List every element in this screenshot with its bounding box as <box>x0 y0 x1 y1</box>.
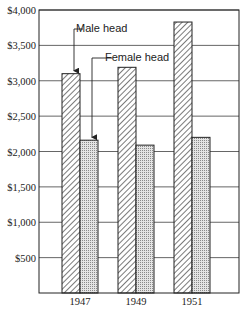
legend-label-male: Male head <box>76 22 127 34</box>
y-tick-label: $1,000 <box>7 217 36 228</box>
bar-male-1951 <box>174 22 192 293</box>
x-tick-label: 1951 <box>182 296 203 307</box>
y-tick-label: $2,000 <box>7 146 36 157</box>
bar-male-1947 <box>62 74 80 293</box>
bar-male-1949 <box>118 67 136 293</box>
plot-area <box>0 0 244 311</box>
bar-chart: $500$1,000$1,500$2,000$2,500$3,000$3,500… <box>0 0 244 311</box>
legend-label-female: Female head <box>105 51 169 63</box>
y-tick-label: $1,500 <box>7 181 36 192</box>
y-tick-label: $500 <box>15 252 36 263</box>
bar-female-1949 <box>136 145 154 293</box>
bar-female-1951 <box>192 137 210 293</box>
y-tick-label: $4,000 <box>7 5 36 16</box>
x-tick-label: 1949 <box>126 296 147 307</box>
x-tick-label: 1947 <box>70 296 91 307</box>
y-tick-label: $3,500 <box>7 40 36 51</box>
y-tick-label: $2,500 <box>7 111 36 122</box>
bar-female-1947 <box>80 140 98 293</box>
y-tick-label: $3,000 <box>7 75 36 86</box>
